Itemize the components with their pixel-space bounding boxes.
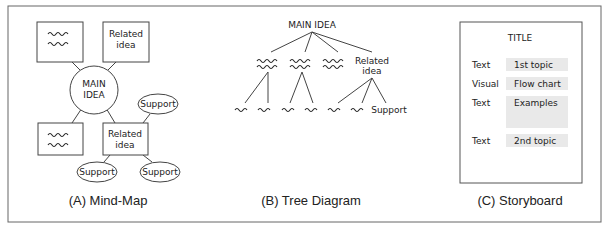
caption-tree-diagram: (B) Tree Diagram	[261, 193, 361, 208]
tree-root-label: MAIN IDEA	[288, 20, 336, 30]
row-content: Flow chart	[514, 79, 561, 89]
tree-node-1	[257, 60, 277, 69]
tree-node-2	[290, 60, 310, 69]
mind-map: Related idea MAIN IDEA Related idea Supp…	[37, 22, 180, 208]
row-type: Visual	[472, 79, 499, 89]
caption-storyboard: (C) Storyboard	[477, 193, 562, 208]
support-label: Support	[140, 99, 176, 109]
row-content: 1st topic	[514, 60, 553, 70]
mindmap-support-top: Support	[138, 94, 178, 114]
support-label: Support	[142, 167, 178, 177]
support-label: Support	[79, 167, 115, 177]
mindmap-related-idea-bottom: Related idea	[103, 123, 148, 155]
storyboard-title: TITLE	[507, 33, 533, 43]
mindmap-support-bottom-left: Support	[77, 162, 117, 182]
row-content: Examples	[514, 98, 558, 108]
mindmap-support-bottom-right: Support	[140, 162, 180, 182]
mindmap-related-idea-top: Related idea	[103, 22, 149, 62]
idea-label: IDEA	[83, 90, 105, 100]
tree-diagram: MAIN IDEA Related idea	[235, 20, 407, 208]
row-type: Text	[471, 98, 491, 108]
row-type: Text	[471, 60, 491, 70]
main-label: MAIN	[82, 79, 105, 89]
mindmap-main-idea: MAIN IDEA	[70, 66, 118, 114]
related-label: Related	[355, 56, 389, 66]
related-label: Related	[108, 129, 142, 139]
tree-support-label: Support	[371, 105, 407, 115]
row-content: 2nd topic	[514, 136, 556, 146]
mindmap-placeholder-box-top	[37, 22, 83, 62]
related-label: Related	[109, 29, 143, 39]
idea-label: idea	[115, 140, 134, 150]
row-type: Text	[471, 136, 491, 146]
idea-label: idea	[116, 40, 135, 50]
caption-mind-map: (A) Mind-Map	[69, 193, 148, 208]
idea-label: idea	[362, 66, 381, 76]
tree-related-idea: Related idea	[355, 56, 389, 76]
mindmap-placeholder-box-bottom	[38, 123, 83, 155]
storyboard: TITLE Text 1st topic Visual Flow chart T…	[460, 22, 582, 208]
diagram-canvas: Related idea MAIN IDEA Related idea Supp…	[0, 0, 609, 231]
tree-node-3	[323, 60, 343, 69]
